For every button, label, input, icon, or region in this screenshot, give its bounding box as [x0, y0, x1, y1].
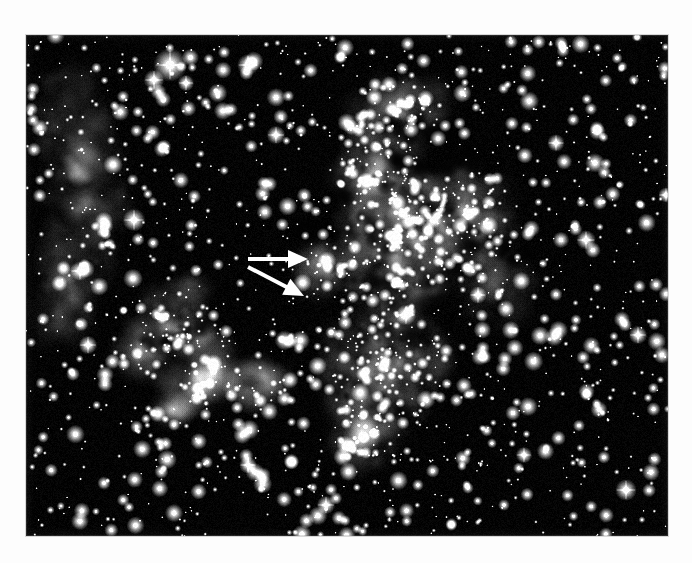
astronomical-plate — [26, 35, 668, 536]
page-root — [0, 0, 692, 563]
star-field-canvas — [26, 35, 668, 536]
